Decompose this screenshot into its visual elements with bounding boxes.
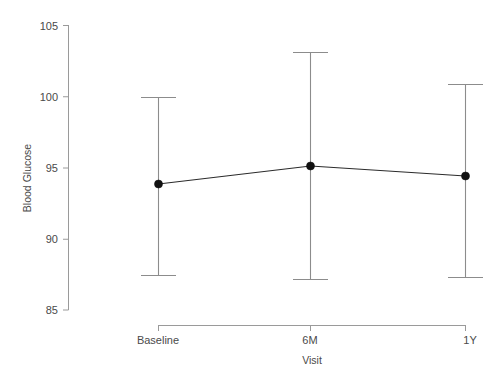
y-tick-label-100: 100: [40, 91, 58, 103]
x-axis-ticks: [159, 326, 466, 332]
y-tick-label-95: 95: [46, 162, 58, 174]
y-tick-label-85: 85: [46, 304, 58, 316]
y-axis-title: Blood Glucose: [21, 144, 33, 212]
x-tick-label-1y: 1Y: [463, 334, 477, 346]
data-point-baseline: [155, 180, 163, 188]
data-point-6m: [307, 162, 315, 170]
y-axis-tick-labels: 105 100 95 90 85: [40, 20, 58, 317]
y-tick-label-105: 105: [40, 20, 58, 32]
data-point-markers: [155, 162, 470, 188]
data-point-1y: [462, 172, 470, 180]
x-axis-tick-labels: Baseline 6M 1Y: [137, 334, 477, 346]
x-tick-label-baseline: Baseline: [137, 334, 179, 346]
x-axis-title: Visit: [302, 354, 322, 366]
x-tick-label-6m: 6M: [302, 334, 317, 346]
y-tick-label-90: 90: [46, 233, 58, 245]
y-axis-ticks: [63, 26, 69, 311]
error-bar-1y: [448, 84, 483, 278]
blood-glucose-errorbar-chart: 105 100 95 90 85 Blood Glucose Baseline …: [0, 0, 504, 382]
chart-container: 105 100 95 90 85 Blood Glucose Baseline …: [0, 0, 504, 382]
